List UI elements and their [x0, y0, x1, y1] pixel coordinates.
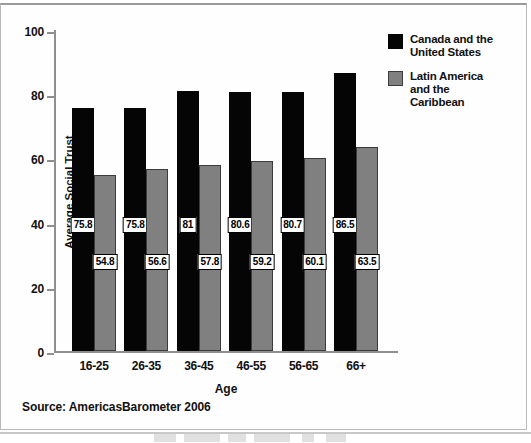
bar-latin-america: 56.6 [146, 169, 168, 351]
legend-label-latin-america-line3: Caribbean [410, 96, 464, 108]
y-tick-mark [47, 96, 54, 98]
legend-label-canada-us-line1: Canada and the [410, 33, 493, 45]
bar-latin-america: 57.8 [199, 165, 221, 351]
bar-canada-us: 80.7 [282, 92, 304, 351]
bar-latin-america: 59.2 [251, 161, 273, 351]
legend-label-canada-us: Canada and the United States [410, 33, 493, 59]
bar-latin-america: 54.8 [94, 175, 116, 351]
y-tick-label: 80 [31, 89, 44, 103]
bar-value-label: 54.8 [93, 254, 118, 270]
bar-value-label: 60.1 [302, 254, 327, 270]
x-tick-label: 36-45 [184, 359, 213, 373]
legend-label-canada-us-line2: United States [410, 46, 481, 58]
legend-label-latin-america: Latin America and the Caribbean [410, 70, 483, 109]
y-tick-mark [47, 353, 54, 355]
bar-canada-us: 75.8 [124, 108, 146, 351]
legend-swatch-latin-america-icon [388, 71, 403, 86]
y-tick-mark [47, 32, 54, 34]
plot-area: Average Social Trust 020406080100 75.854… [54, 30, 398, 353]
legend-item-latin-america: Latin America and the Caribbean [388, 70, 523, 109]
bar-canada-us: 80.6 [229, 92, 251, 351]
y-tick-mark [47, 289, 54, 291]
bar-value-label: 63.5 [355, 254, 380, 270]
bar-value-label: 57.8 [197, 254, 222, 270]
bar-group: 80.659.2 [229, 30, 273, 351]
bar-canada-us: 81 [177, 91, 199, 351]
bar-value-label: 81 [179, 217, 196, 233]
bar-value-label: 80.7 [280, 217, 305, 233]
y-axis-line [54, 30, 56, 353]
bar-group: 86.563.5 [334, 30, 378, 351]
x-tick-label: 16-25 [79, 359, 108, 373]
y-tick-label: 100 [25, 25, 44, 39]
legend-swatch-canada-us-icon [388, 34, 403, 49]
source-note: Source: AmericasBarometer 2006 [22, 400, 211, 414]
bar-group: 75.856.6 [124, 30, 168, 351]
y-tick-label: 40 [31, 218, 44, 232]
x-axis-line [54, 351, 398, 353]
y-tick-mark [47, 225, 54, 227]
x-axis-title: Age [215, 382, 238, 396]
x-tick-label: 26-35 [132, 359, 161, 373]
bar-value-label: 75.8 [123, 217, 148, 233]
bar-group: 80.760.1 [282, 30, 326, 351]
bar-canada-us: 86.5 [334, 73, 356, 351]
bar-value-label: 56.6 [145, 254, 170, 270]
legend-label-latin-america-line1: Latin America [410, 70, 483, 82]
x-tick-label: 46-55 [237, 359, 266, 373]
bar-value-label: 86.5 [333, 217, 358, 233]
bar-canada-us: 75.8 [72, 108, 94, 351]
bar-value-label: 59.2 [250, 254, 275, 270]
y-tick-label: 0 [38, 346, 44, 360]
x-tick-label: 56-65 [289, 359, 318, 373]
legend-item-canada-us: Canada and the United States [388, 33, 523, 59]
bar-latin-america: 60.1 [304, 158, 326, 351]
bar-group: 75.854.8 [72, 30, 116, 351]
bar-latin-america: 63.5 [356, 147, 378, 351]
y-tick-mark [47, 160, 54, 162]
y-tick-label: 60 [31, 153, 44, 167]
legend-label-latin-america-line2: and the [410, 83, 450, 95]
cropped-caption-remnant [150, 434, 390, 442]
y-tick-label: 20 [31, 282, 44, 296]
chart-legend: Canada and the United States Latin Ameri… [388, 33, 523, 119]
chart-page: Average Social Trust 020406080100 75.854… [0, 0, 531, 443]
bar-value-label: 75.8 [71, 217, 96, 233]
bar-value-label: 80.6 [228, 217, 253, 233]
bar-group: 8157.8 [177, 30, 221, 351]
x-tick-label: 66+ [346, 359, 365, 373]
